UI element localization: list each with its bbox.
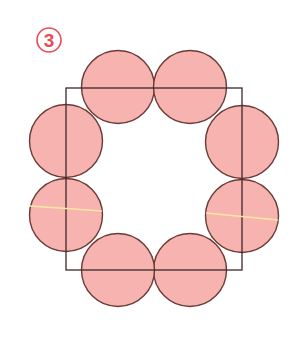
circle-ring xyxy=(30,51,279,307)
circle-top-right xyxy=(154,51,227,124)
circle-top-left xyxy=(82,51,155,124)
figure-canvas: 3 xyxy=(0,0,300,346)
figure-number-badge: 3 xyxy=(37,28,61,52)
badge-number: 3 xyxy=(44,30,55,51)
circles-around-square-diagram: 3 xyxy=(0,0,300,346)
